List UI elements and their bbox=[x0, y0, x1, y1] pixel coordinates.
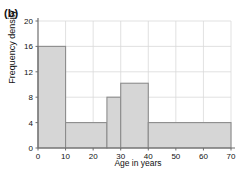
x-axis-tick-label: 30 bbox=[116, 152, 125, 161]
histogram-bar bbox=[121, 83, 149, 148]
x-axis-tick-label: 60 bbox=[199, 152, 208, 161]
y-axis-tick-label: 0 bbox=[29, 144, 34, 153]
histogram-bar bbox=[148, 123, 231, 148]
x-axis-tick-labels: 010203040506070 bbox=[36, 148, 236, 161]
histogram-bar bbox=[107, 97, 121, 148]
histogram-plot: 010203040506070 048121620 bbox=[0, 0, 240, 172]
histogram-bar bbox=[38, 46, 66, 148]
y-axis-tick-labels: 048121620 bbox=[24, 17, 38, 153]
y-axis-tick-label: 8 bbox=[29, 93, 34, 102]
x-axis-tick-label: 40 bbox=[144, 152, 153, 161]
y-axis-tick-label: 12 bbox=[24, 68, 33, 77]
x-axis-tick-label: 10 bbox=[61, 152, 70, 161]
y-axis-tick-label: 4 bbox=[29, 119, 34, 128]
histogram-bar bbox=[66, 123, 107, 148]
x-axis-tick-label: 70 bbox=[227, 152, 236, 161]
x-axis-tick-label: 0 bbox=[36, 152, 41, 161]
x-axis-tick-label: 20 bbox=[89, 152, 98, 161]
y-axis-tick-label: 16 bbox=[24, 42, 33, 51]
x-axis-tick-label: 50 bbox=[171, 152, 180, 161]
figure-panel-b: (b) Frequency density Age in years 01020… bbox=[0, 0, 240, 172]
y-axis-tick-label: 20 bbox=[24, 17, 33, 26]
